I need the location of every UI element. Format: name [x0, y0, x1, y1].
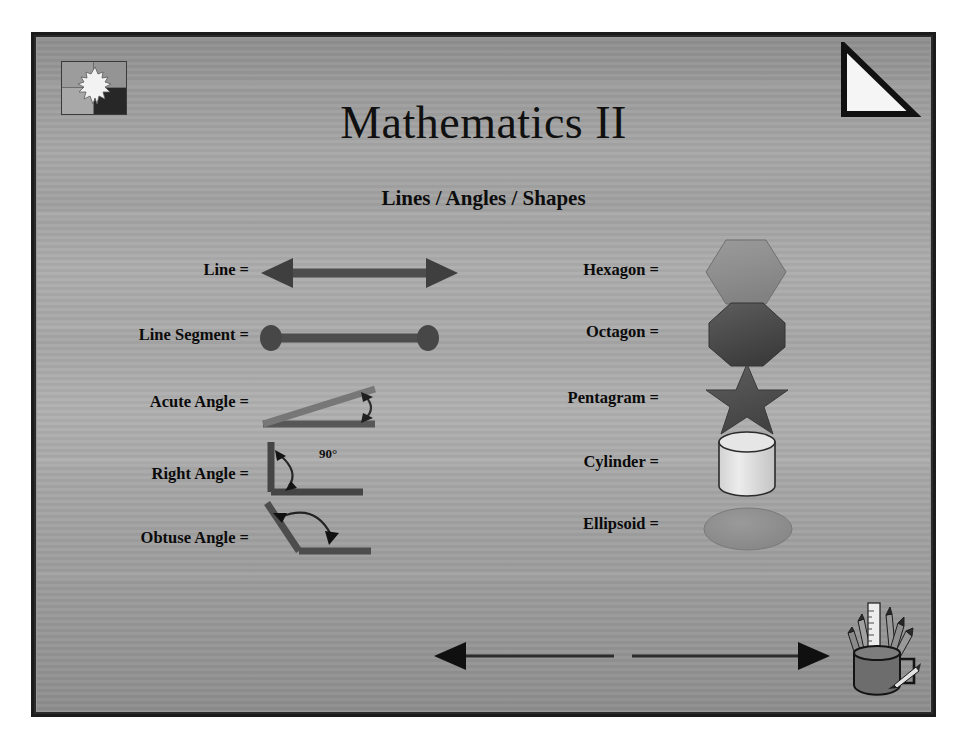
- list-item: Line Segment =: [77, 313, 477, 375]
- list-item: Obtuse Angle =: [77, 501, 477, 563]
- page-title: Mathematics II: [37, 96, 930, 149]
- term-label-cylinder: Cylinder =: [583, 452, 659, 472]
- list-item: Line =: [77, 248, 477, 310]
- ellipsoid-shape-icon: [701, 504, 795, 554]
- presentation-slide: Mathematics II Lines / Angles / Shapes L…: [31, 32, 936, 717]
- right-angle-annotation: 90°: [319, 446, 337, 461]
- list-item: Acute Angle =: [77, 376, 477, 438]
- hexagon-shape-icon: [702, 236, 792, 308]
- pentagram-shape-icon: [701, 362, 793, 436]
- pencil-cup-icon: [838, 593, 924, 697]
- list-item: Cylinder =: [477, 436, 877, 498]
- cylinder-shape-icon: [711, 428, 783, 502]
- term-label-line-segment: Line Segment =: [139, 325, 249, 345]
- line-segment-with-endpoints-icon: [257, 319, 442, 357]
- term-label-hexagon: Hexagon =: [583, 260, 659, 280]
- list-item: Octagon =: [477, 310, 877, 372]
- octagon-shape-icon: [705, 300, 789, 370]
- term-label-pentagram: Pentagram =: [568, 388, 659, 408]
- term-label-right-angle: Right Angle =: [152, 464, 249, 484]
- list-item: Pentagram =: [477, 374, 877, 436]
- list-item: Ellipsoid =: [477, 498, 877, 560]
- term-label-ellipsoid: Ellipsoid =: [583, 514, 659, 534]
- right-angle-diagram-icon: 90°: [259, 434, 375, 504]
- term-label-line: Line =: [203, 260, 249, 280]
- obtuse-angle-diagram-icon: [253, 495, 379, 569]
- double-headed-arrow-icon: [432, 639, 832, 673]
- acute-angle-diagram-icon: [257, 376, 387, 434]
- page-subtitle: Lines / Angles / Shapes: [37, 186, 930, 211]
- term-label-octagon: Octagon =: [586, 322, 659, 342]
- term-label-acute-angle: Acute Angle =: [150, 392, 249, 412]
- term-label-obtuse-angle: Obtuse Angle =: [141, 528, 249, 548]
- list-item: Right Angle = 90°: [77, 438, 477, 500]
- slide-canvas: Mathematics II Lines / Angles / Shapes L…: [37, 38, 930, 711]
- list-item: Hexagon =: [477, 248, 877, 310]
- double-headed-arrow-icon: [257, 252, 462, 294]
